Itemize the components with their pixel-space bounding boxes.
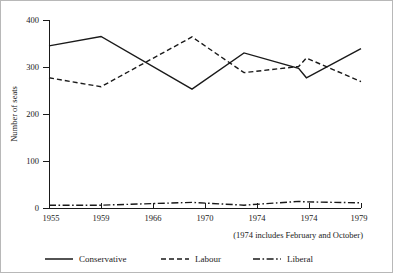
x-tick-label-1: 1955 [43,213,60,223]
x-tick-label-4: 1970 [197,213,214,223]
chart-figure: 400 300 200 100 0 Number of seats 1955 1… [0,0,393,273]
chart-annotation: (1974 includes February and October) [233,230,363,240]
x-tick-label-2: 1959 [93,213,110,223]
y-axis-title: Number of seats [9,86,19,142]
legend-label-conservative: Conservative [79,254,127,264]
line-chart: 400 300 200 100 0 Number of seats 1955 1… [1,1,393,273]
x-tick-label-7: 1979 [351,213,368,223]
y-tick-label-200: 200 [26,109,39,119]
x-tick-label-5: 1974 [249,213,267,223]
x-tick-label-3: 1966 [145,213,162,223]
y-axis-ticks [43,20,49,208]
x-tick-label-6: 1974 [301,213,319,223]
y-tick-label-0: 0 [35,203,39,213]
chart-legend: Conservative Labour Liberal [45,254,313,264]
y-tick-label-400: 400 [26,15,39,25]
series-line-conservative [49,36,361,89]
legend-label-liberal: Liberal [287,254,313,264]
y-tick-label-300: 300 [26,62,39,72]
legend-label-labour: Labour [195,254,221,264]
y-tick-label-100: 100 [26,156,39,166]
